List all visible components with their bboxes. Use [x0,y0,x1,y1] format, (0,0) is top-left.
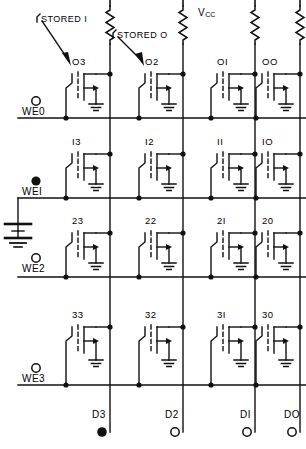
memory-cell-10 [256,152,300,198]
cell-label-23: 23 [72,216,84,226]
memory-cell-20 [256,231,300,277]
data-state-markers [97,427,296,437]
cell-label-00: OO [262,57,278,67]
dataline-label-d2: D2 [165,410,179,420]
memory-cell-13 [66,152,110,198]
stored-one-label: STORED I [41,15,87,24]
memory-cell-32 [139,325,183,385]
we-state-markers [31,97,40,372]
wordline-label-we3: WE3 [22,374,45,384]
memory-cell-23 [66,231,110,277]
schematic-canvas: STORED I STORED O VCC WE0 WEI WE2 WE3 O3… [0,0,306,449]
cell-label-21: 2I [217,216,226,226]
cell-label-03: O3 [72,57,86,67]
cell-label-02: O2 [145,57,159,67]
memory-cell-31 [211,325,255,385]
memory-cell-30 [256,325,300,385]
memory-cell-11 [211,152,255,198]
cell-label-32: 32 [145,310,157,320]
cell-label-30: 30 [262,310,274,320]
memory-cell-33 [66,325,110,385]
wordline-label-we2: WE2 [22,264,45,274]
dataline-label-d3: D3 [92,410,106,420]
cell-label-20: 20 [262,216,274,226]
cell-label-01: OI [217,57,228,67]
cell-label-12: I2 [145,137,154,147]
supply-label: VCC [198,8,215,18]
dataline-label-d1: DI [240,410,251,420]
wordline-label-we1: WEI [22,187,42,197]
supply-column-1 [251,0,259,44]
wordline-label-we0: WE0 [22,107,45,117]
cell-label-11: II [217,137,223,147]
supply-subscript: CC [205,11,215,18]
memory-cell-12 [139,152,183,198]
memory-cell-01 [211,72,255,118]
memory-cell-03 [66,72,110,118]
memory-cell-21 [211,231,255,277]
supply-column-0 [296,0,304,44]
cell-label-33: 33 [72,310,84,320]
cell-label-13: I3 [72,137,81,147]
memory-cell-02 [139,72,183,118]
memory-cell-00 [256,72,300,118]
dataline-label-d0: DO [284,410,300,420]
stored-zero-label: STORED O [117,31,168,40]
cell-label-31: 3I [217,310,226,320]
supply-column-2 [179,0,187,44]
cell-label-10: IO [262,137,273,147]
cell-label-22: 22 [145,216,157,226]
battery-ground-source [5,198,31,247]
memory-cell-22 [139,231,183,277]
